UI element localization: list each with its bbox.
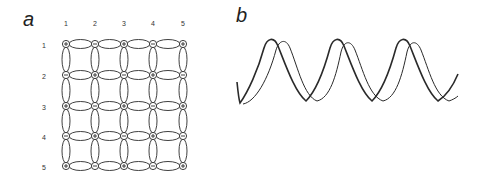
waveform-diagram <box>0 0 478 184</box>
waveform-thin <box>243 41 458 104</box>
waveform-thick <box>237 39 458 103</box>
